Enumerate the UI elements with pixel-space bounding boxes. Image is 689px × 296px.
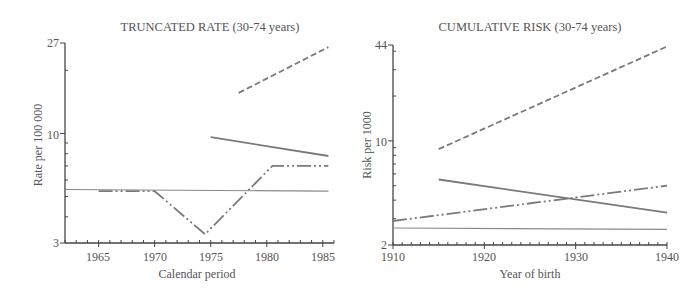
y-axis: 27 10 3 Rate per 100 000	[31, 36, 68, 250]
series-lines	[65, 47, 328, 234]
truncated-rate-chart: TRUNCATED RATE (30-74 years) 27 10 3 Rat…	[31, 20, 335, 281]
x-tick-label: 1985	[311, 250, 335, 264]
figure: TRUNCATED RATE (30-74 years) 27 10 3 Rat…	[0, 0, 689, 296]
y-tick-label: 27	[47, 36, 59, 50]
cumulative-risk-chart: CUMULATIVE RISK (30-74 years) 44 10 2 Ri…	[360, 20, 679, 281]
x-tick-label: 1920	[472, 250, 496, 264]
y-tick-label: 3	[53, 236, 59, 250]
x-tick-label: 1910	[381, 250, 405, 264]
series-line-dash-dot-dot	[99, 166, 329, 234]
series-line-solid-thin	[393, 228, 667, 229]
y-axis: 44 10 2 Risk per 1000	[360, 38, 396, 252]
y-tick-label: 10	[375, 135, 387, 149]
chart-title: CUMULATIVE RISK (30-74 years)	[439, 20, 622, 34]
y-tick-label: 10	[47, 128, 59, 142]
series-lines	[393, 47, 667, 230]
x-axis-label: Year of birth	[500, 267, 561, 281]
series-line-dashed	[439, 47, 667, 150]
x-tick-label: 1970	[143, 250, 167, 264]
x-tick-label: 1975	[199, 250, 223, 264]
x-tick-label: 1965	[86, 250, 110, 264]
y-axis-label: Risk per 1000	[360, 111, 374, 178]
series-line-dashed	[239, 47, 329, 93]
series-line-solid-thick	[439, 180, 667, 213]
x-axis-label: Calendar period	[159, 267, 236, 281]
series-line-dash-dot-dot	[393, 186, 667, 221]
x-axis: 1965 1970 1975 1980 1985 Calendar period	[65, 240, 335, 281]
y-ticks	[60, 43, 68, 243]
y-axis-label: Rate per 100 000	[31, 104, 45, 186]
series-line-solid-thick	[211, 137, 329, 156]
x-tick-label: 1930	[564, 250, 588, 264]
x-axis: 1910 1920 1930 1940 Year of birth	[381, 242, 679, 281]
x-tick-label: 1980	[255, 250, 279, 264]
chart-title: TRUNCATED RATE (30-74 years)	[121, 20, 300, 34]
y-tick-label: 44	[375, 38, 387, 52]
x-tick-label: 1940	[655, 250, 679, 264]
y-ticks	[388, 45, 396, 245]
